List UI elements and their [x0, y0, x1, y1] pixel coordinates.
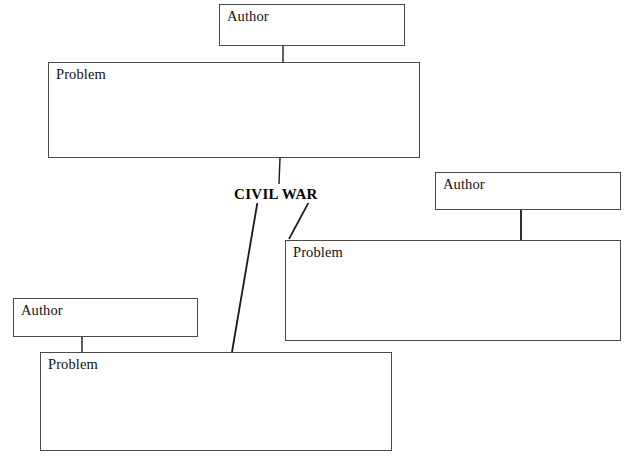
- connector-center-to-problem-bottom: [232, 199, 258, 352]
- problem-box-top[interactable]: Problem: [48, 62, 420, 158]
- problem-box-bottom-label: Problem: [48, 356, 98, 373]
- problem-box-top-label: Problem: [56, 66, 106, 83]
- author-box-right-body[interactable]: [443, 197, 614, 206]
- problem-box-right-body[interactable]: [293, 265, 614, 337]
- problem-box-right-label: Problem: [293, 244, 343, 261]
- author-box-bottom-left-body[interactable]: [21, 323, 191, 333]
- connector-center-to-problem-right: [289, 198, 311, 239]
- author-box-top[interactable]: Author: [219, 4, 405, 46]
- center-topic-civil-war[interactable]: CIVIL WAR: [232, 186, 320, 203]
- problem-box-top-body[interactable]: [56, 87, 413, 154]
- concept-map-diagram: AuthorProblemAuthorProblemAuthorProblem …: [0, 0, 630, 462]
- problem-box-right[interactable]: Problem: [285, 240, 621, 341]
- problem-box-bottom-body[interactable]: [48, 377, 385, 447]
- author-box-top-label: Author: [227, 8, 269, 25]
- author-box-right-label: Author: [443, 176, 485, 193]
- author-box-bottom-left[interactable]: Author: [13, 298, 198, 337]
- connector-problem-top-to-center: [279, 158, 280, 184]
- author-box-bottom-left-label: Author: [21, 302, 63, 319]
- problem-box-bottom[interactable]: Problem: [40, 352, 392, 451]
- author-box-top-body[interactable]: [227, 29, 398, 42]
- author-box-right[interactable]: Author: [435, 172, 621, 210]
